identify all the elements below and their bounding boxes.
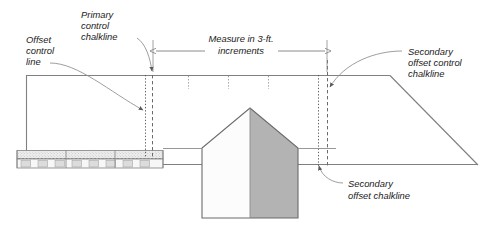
- offset-control-line-label-line1: Offset: [26, 34, 51, 45]
- secondary-offset-control-label-line1: Secondary: [408, 46, 454, 57]
- shingle-band-upper-strip: [17, 151, 163, 160]
- shingle-block: [21, 160, 31, 167]
- secondary-offset-chalkline-label-group: Secondary offset chalkline: [319, 166, 410, 201]
- shingle-block: [140, 160, 150, 167]
- measure-label-line2: increments: [218, 45, 264, 56]
- offset-control-line-label-line3: line: [26, 56, 41, 67]
- shingle-block: [89, 160, 99, 167]
- dimension-line-group: Measure in 3-ft. increments: [153, 33, 327, 72]
- offset-control-line-label-line2: control: [26, 45, 55, 56]
- secondary-offset-chalkline-label-line1: Secondary: [348, 178, 394, 189]
- measure-label-line1: Measure in 3-ft.: [208, 33, 273, 44]
- roof-chalkline-diagram: Measure in 3-ft. increments Offset contr…: [0, 0, 497, 236]
- primary-control-label-line3: chalkline: [81, 31, 117, 42]
- primary-control-label-line1: Primary: [81, 9, 115, 20]
- shingle-block: [72, 160, 82, 167]
- primary-control-label-line2: control: [81, 20, 110, 31]
- diagram-canvas: Measure in 3-ft. increments Offset contr…: [0, 0, 497, 236]
- secondary-offset-chalkline-leader: [319, 166, 343, 183]
- secondary-offset-chalkline-label-line2: offset chalkline: [348, 190, 410, 201]
- shingle-block: [106, 160, 116, 167]
- shingle-block: [38, 160, 48, 167]
- primary-control-chalkline-label-group: Primary control chalkline: [81, 9, 152, 71]
- secondary-offset-control-label-line2: offset control: [408, 57, 463, 68]
- shingle-course-band: [17, 151, 163, 169]
- shingle-block: [123, 160, 133, 167]
- secondary-offset-control-label-line3: chalkline: [408, 68, 444, 79]
- primary-control-chalkline-leader: [137, 38, 152, 71]
- shingle-block: [55, 160, 65, 167]
